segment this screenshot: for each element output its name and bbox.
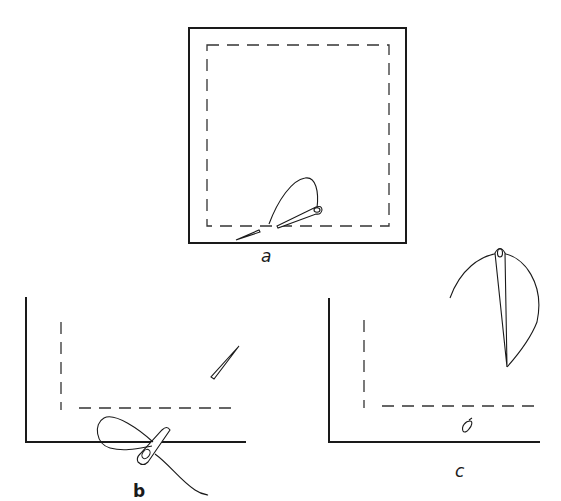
panel-label-b: b [133, 481, 145, 501]
panel-b: b [25, 297, 246, 501]
thread-loop [269, 178, 318, 224]
needle-icon [495, 249, 507, 368]
panel-label-a: a [261, 246, 271, 266]
needle-tip-icon [236, 230, 260, 240]
sewing-diagram: a b c [0, 0, 561, 501]
stitch-line-dashed [207, 45, 389, 226]
panel-label-c: c [455, 461, 465, 481]
panel-c: c [328, 249, 540, 482]
needle-tip-icon [211, 346, 239, 379]
panel-a: a [189, 28, 406, 266]
thread-loop [97, 417, 153, 450]
thread-arc [450, 253, 539, 367]
fabric-outer-edge [189, 28, 406, 243]
thread-tail [155, 454, 208, 495]
needle-icon [277, 206, 322, 228]
knot-icon [463, 418, 472, 432]
